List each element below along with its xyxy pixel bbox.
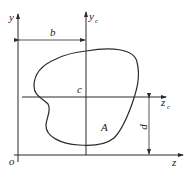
- dim-d-label: d: [137, 124, 149, 130]
- z-axis-label: z: [171, 156, 177, 168]
- dim-b-label: b: [50, 26, 56, 38]
- origin-label: o: [9, 155, 15, 167]
- parallel-axis-diagram: y y c b c z c A d o z: [0, 0, 192, 182]
- y-axis-label: y: [8, 11, 14, 23]
- zc-axis-label: z: [160, 96, 166, 108]
- yc-axis-subscript: c: [95, 17, 99, 25]
- centroid-label: c: [77, 83, 82, 95]
- area-label: A: [100, 121, 108, 133]
- yc-axis-label: y: [88, 10, 94, 22]
- zc-axis-subscript: c: [167, 103, 171, 111]
